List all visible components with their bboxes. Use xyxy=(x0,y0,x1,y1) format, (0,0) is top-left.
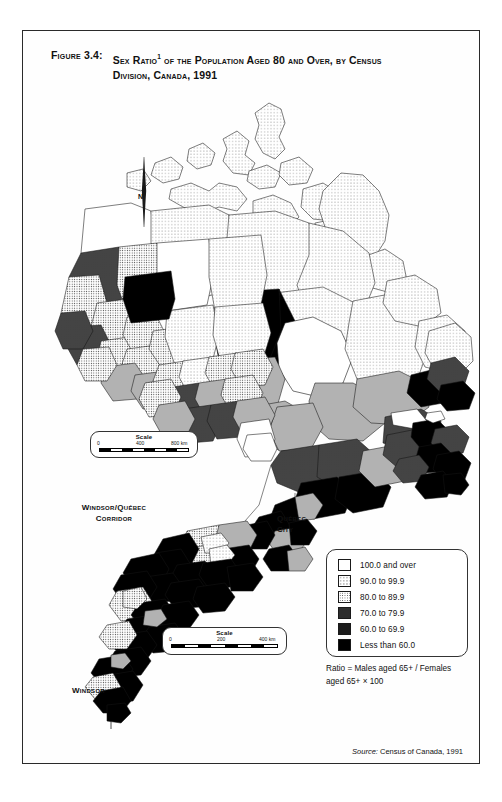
legend-swatch-icon xyxy=(338,607,351,619)
source-prefix: Source: xyxy=(352,747,378,756)
ratio-note-line2: aged 65+ × 100 xyxy=(326,676,486,689)
legend: 100.0 and over 90.0 to 99.9 80.0 to 89.9… xyxy=(326,549,468,657)
figure-frame: Figure 3.4: Sex Ratio1 of the Population… xyxy=(22,30,480,764)
legend-item: Less than 60.0 xyxy=(338,637,467,653)
legend-item-label: 80.0 to 89.9 xyxy=(360,593,404,602)
label-windsor: Windsor xyxy=(35,685,105,696)
legend-item-label: 90.0 to 99.9 xyxy=(360,577,404,586)
legend-swatch-icon xyxy=(338,575,351,587)
scale-inset-tick-mid: 200 xyxy=(217,636,225,642)
source-note: Source: Census of Canada, 1991 xyxy=(23,747,463,756)
north-arrow-label: N xyxy=(138,193,143,200)
scale-inset-tick-0: 0 xyxy=(169,636,172,642)
legend-item: 70.0 to 79.9 xyxy=(338,605,467,621)
scale-inset-tick-end: 400 km xyxy=(259,636,275,642)
label-quebec-city: Québec City xyxy=(277,513,335,535)
label-windsor-quebec-corridor: Windsor/Québec Corridor xyxy=(59,502,169,524)
ratio-definition-note: Ratio = Males aged 65+ / Females aged 65… xyxy=(326,663,486,688)
scale-inset-bar xyxy=(171,644,278,648)
north-arrow: N xyxy=(135,157,157,227)
corridor-label-line2: Corridor xyxy=(59,513,169,524)
scale-main-tick-mid: 400 xyxy=(136,440,144,446)
legend-item-label: 60.0 to 69.9 xyxy=(360,625,404,634)
legend-item-label: Less than 60.0 xyxy=(360,641,415,650)
corridor-label-line1: Windsor/Québec xyxy=(82,503,147,512)
legend-swatch-icon xyxy=(338,591,351,603)
quebec-city-label-line1: Québec xyxy=(277,514,306,523)
legend-swatch-icon xyxy=(338,559,351,571)
legend-item: 60.0 to 69.9 xyxy=(338,621,467,637)
legend-item-label: 70.0 to 79.9 xyxy=(360,609,404,618)
scale-main-bar xyxy=(99,448,189,452)
scale-bar-main: Scale 0 400 800 km xyxy=(90,431,198,458)
legend-swatch-icon xyxy=(338,639,351,651)
ratio-note-line1: Ratio = Males aged 65+ / Females xyxy=(326,663,486,676)
source-text: Census of Canada, 1991 xyxy=(378,747,463,756)
quebec-city-label-line2: City xyxy=(277,525,293,534)
legend-swatch-icon xyxy=(338,623,351,635)
legend-item: 90.0 to 99.9 xyxy=(338,573,467,589)
scale-main-tick-end: 800 km xyxy=(171,440,187,446)
scale-inset-ticks: 0 200 400 km xyxy=(163,636,286,644)
scale-bar-inset: Scale 0 200 400 km xyxy=(162,627,287,655)
legend-item: 100.0 and over xyxy=(338,557,467,573)
scale-main-tick-0: 0 xyxy=(97,440,100,446)
scale-main-ticks: 0 400 800 km xyxy=(91,440,197,448)
legend-item-label: 100.0 and over xyxy=(360,561,416,570)
legend-item: 80.0 to 89.9 xyxy=(338,589,467,605)
